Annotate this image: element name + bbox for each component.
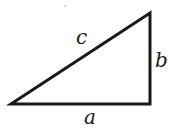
right-triangle-diagram: c b a [0, 0, 173, 133]
triangle-svg: c b a [0, 0, 173, 133]
stray-dot [64, 5, 66, 7]
label-hypotenuse: c [76, 25, 87, 49]
label-horizontal-leg: a [84, 105, 96, 129]
label-vertical-leg: b [155, 48, 168, 72]
